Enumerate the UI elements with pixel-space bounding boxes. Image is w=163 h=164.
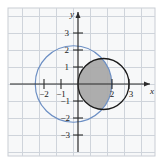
- y-axis-label: y: [69, 9, 74, 19]
- x-tick-label-3: 3: [129, 89, 134, 99]
- x-tick-label-neg2: −2: [39, 89, 49, 99]
- y-tick-label-neg3: −3: [60, 130, 70, 140]
- x-axis-label: x: [149, 86, 154, 96]
- y-tick-label-neg1: −1: [60, 96, 70, 106]
- graph-figure: −2 −1 2 3 3 2 1 −1 −2 −3 x y: [0, 0, 163, 164]
- y-tick-label-2: 2: [65, 45, 70, 55]
- y-tick-label-neg2: −2: [60, 113, 70, 123]
- y-tick-label-3: 3: [65, 28, 70, 38]
- x-tick-label-2: 2: [110, 89, 115, 99]
- y-tick-label-1: 1: [65, 62, 70, 72]
- coordinate-plane-svg: −2 −1 2 3 3 2 1 −1 −2 −3 x y: [0, 0, 163, 164]
